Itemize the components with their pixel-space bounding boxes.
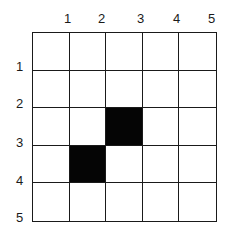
grid-cell-r5-c5: [179, 183, 216, 221]
row-label-5: 5: [16, 211, 23, 224]
filled-cell-r4-c2: [70, 146, 107, 184]
grid-cell-r3-c2: [70, 108, 107, 146]
grid-board: [32, 32, 217, 222]
grid-cell-r1-c4: [143, 33, 180, 71]
row-label-4: 4: [16, 174, 23, 187]
row-label-3: 3: [16, 136, 23, 149]
grid-cell-r4-c5: [179, 146, 216, 184]
grid-cell-r2-c3: [106, 71, 143, 109]
grid-cell-r5-c4: [143, 183, 180, 221]
column-label-1: 1: [64, 12, 71, 25]
grid-cell-r2-c5: [179, 71, 216, 109]
row-label-2: 2: [16, 97, 23, 110]
column-label-5: 5: [208, 12, 215, 25]
grid-cell-r5-c1: [33, 183, 70, 221]
column-label-2: 2: [98, 12, 105, 25]
column-label-3: 3: [137, 12, 144, 25]
grid-cell-r1-c1: [33, 33, 70, 71]
filled-cell-r3-c3: [106, 108, 143, 146]
column-label-4: 4: [173, 12, 180, 25]
grid-cell-r2-c1: [33, 71, 70, 109]
row-label-1: 1: [16, 60, 23, 73]
grid-cell-r1-c5: [179, 33, 216, 71]
grid-cell-r2-c4: [143, 71, 180, 109]
grid-cell-r3-c4: [143, 108, 180, 146]
grid-cell-r1-c2: [70, 33, 107, 71]
grid-cell-r1-c3: [106, 33, 143, 71]
grid-cell-r2-c2: [70, 71, 107, 109]
grid-cell-r5-c3: [106, 183, 143, 221]
grid-cell-r4-c3: [106, 146, 143, 184]
grid-cell-r4-c1: [33, 146, 70, 184]
grid-cell-r3-c1: [33, 108, 70, 146]
grid-cell-r4-c4: [143, 146, 180, 184]
grid-cell-r5-c2: [70, 183, 107, 221]
grid-cell-r3-c5: [179, 108, 216, 146]
